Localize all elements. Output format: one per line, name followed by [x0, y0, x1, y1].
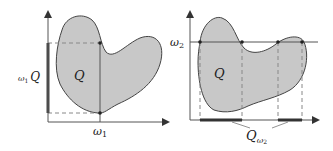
left-panel: Q ω1 ω1Q: [18, 12, 168, 139]
right-blob-label: Q: [214, 66, 225, 81]
right-point-1: [198, 40, 202, 44]
left-omega1-label: ω1: [93, 125, 107, 139]
right-point-3: [276, 40, 280, 44]
right-point-4: [300, 40, 304, 44]
right-point-2: [240, 40, 244, 44]
left-point-top: [98, 41, 102, 45]
left-blob: [56, 16, 162, 113]
projection-diagram: Q ω1 ω1Q Q ω2 Qω2: [0, 0, 333, 151]
right-Q-omega2-label: Qω2: [246, 128, 267, 145]
right-blob: [198, 17, 307, 111]
right-omega2-label: ω2: [170, 36, 184, 50]
right-panel: Q ω2 Qω2: [170, 12, 318, 145]
left-omega1Q-label: ω1Q: [18, 70, 40, 84]
left-blob-label: Q: [74, 68, 85, 83]
left-point-bottom: [98, 111, 102, 115]
right-pointer-2: [272, 122, 288, 128]
